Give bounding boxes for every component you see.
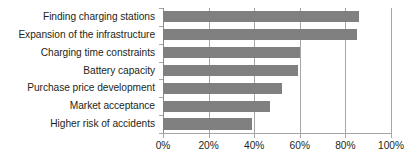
x-axis-tick	[300, 134, 301, 138]
category-label: Expansion of the infrastructure	[18, 26, 155, 44]
x-axis-tick-label: 0%	[156, 139, 171, 152]
bar-row	[163, 26, 391, 44]
bar	[163, 83, 282, 94]
bar-row	[163, 44, 391, 62]
gridline-100%	[391, 8, 392, 133]
x-axis-tick	[345, 134, 346, 138]
bar-row	[163, 62, 391, 80]
category-axis: Finding charging stationsExpansion of th…	[0, 8, 160, 133]
category-label: Market acceptance	[70, 97, 155, 115]
bar	[163, 65, 298, 76]
x-axis-tick-label: 80%	[335, 139, 355, 152]
bar-row	[163, 79, 391, 97]
x-axis-tick-label: 40%	[244, 139, 264, 152]
x-axis-tick	[163, 134, 164, 138]
category-label: Higher risk of accidents	[50, 115, 155, 133]
bar	[163, 101, 270, 112]
x-axis-tick	[209, 134, 210, 138]
bar	[163, 29, 357, 40]
bar-row	[163, 115, 391, 133]
x-axis-tick-label: 20%	[198, 139, 218, 152]
x-axis-ticks	[163, 134, 392, 138]
bar-chart: Finding charging stationsExpansion of th…	[0, 0, 416, 167]
bar	[163, 47, 300, 58]
category-label: Finding charging stations	[43, 8, 155, 26]
category-label: Charging time constraints	[41, 44, 155, 62]
bar	[163, 11, 359, 22]
x-axis-tick	[254, 134, 255, 138]
plot-area	[163, 8, 391, 133]
x-axis-tick	[391, 134, 392, 138]
bar	[163, 118, 252, 129]
bar-row	[163, 8, 391, 26]
category-label: Purchase price development	[27, 79, 155, 97]
x-axis-tick-label: 100%	[378, 139, 404, 152]
x-axis-tick-label: 60%	[290, 139, 310, 152]
category-label: Battery capacity	[83, 62, 155, 80]
x-axis-tick-labels: 0%20%40%60%80%100%	[163, 139, 392, 155]
bar-row	[163, 97, 391, 115]
